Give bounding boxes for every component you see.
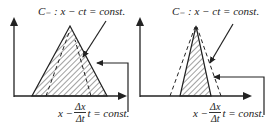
right-fraction-numerator: Δx xyxy=(209,101,221,113)
left-x-axis-arrow-icon xyxy=(118,92,127,100)
right-top-label: C₋ : x − ct = const. xyxy=(172,6,259,17)
left-top-label: C₋ : x − ct = const. xyxy=(38,6,125,17)
left-fraction: Δx Δt xyxy=(74,101,86,124)
right-domain-triangle xyxy=(180,26,211,96)
right-y-axis-arrow-icon xyxy=(136,17,144,26)
left-bottom-suffix: t = const. xyxy=(87,107,129,119)
left-fraction-numerator: Δx xyxy=(74,101,86,113)
right-fraction-denominator: Δt xyxy=(211,113,220,124)
right-bottom-label: x − Δx Δt t = const. xyxy=(193,101,264,124)
left-fraction-denominator: Δt xyxy=(76,113,85,124)
right-x-axis-arrow-icon xyxy=(243,92,252,100)
right-pointer-arrow xyxy=(210,24,233,63)
right-fraction: Δx Δt xyxy=(209,101,221,124)
left-bottom-label: x − Δx Δt t = const. xyxy=(58,101,129,124)
right-bottom-prefix: x − xyxy=(193,107,208,119)
right-bottom-suffix: t = const. xyxy=(222,107,264,119)
left-bottom-prefix: x − xyxy=(58,107,73,119)
left-panel xyxy=(10,17,128,112)
left-y-axis-arrow-icon xyxy=(10,17,18,26)
left-pointer-arrow xyxy=(83,21,106,57)
